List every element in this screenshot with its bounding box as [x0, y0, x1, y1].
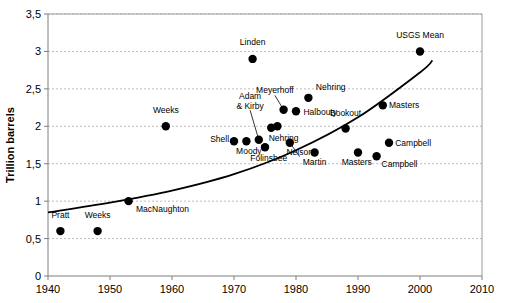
data-point: [93, 227, 101, 235]
x-tick-label: 1970: [222, 283, 246, 295]
point-label: Linden: [240, 37, 266, 47]
data-point: [242, 137, 250, 145]
chart-container: 00,511,522,533,5 19401950196019701980199…: [0, 0, 508, 303]
point-label: Nehring: [269, 133, 299, 143]
point-label: Martin: [303, 157, 327, 167]
trend-curve: [48, 60, 432, 212]
data-point: [304, 94, 312, 102]
data-point: [292, 107, 300, 115]
data-point: [56, 227, 64, 235]
point-label: Weeks: [85, 210, 111, 220]
x-axis-ticks: 19401950196019701980199020002010: [36, 276, 494, 295]
data-point: [230, 137, 238, 145]
data-point: [273, 122, 281, 130]
y-axis-ticks: 00,511,522,533,5: [26, 8, 48, 282]
x-tick-label: 2000: [408, 283, 432, 295]
y-axis-title-label: Trillion barrels: [4, 107, 16, 183]
data-point: [385, 139, 393, 147]
data-point: [279, 106, 287, 114]
point-label: Pratt: [51, 210, 70, 220]
point-label: MacNaughton: [136, 204, 189, 214]
point-label: Weeks: [153, 105, 179, 115]
data-point: [248, 55, 256, 63]
point-label: Masters: [389, 100, 419, 110]
point-label: Folinsbee: [250, 153, 287, 163]
y-axis-title: Trillion barrels: [4, 107, 16, 183]
x-tick-label: 1940: [36, 283, 60, 295]
point-label: Nehring: [316, 82, 346, 92]
x-tick-label: 1950: [98, 283, 122, 295]
x-tick-label: 1960: [160, 283, 184, 295]
point-labels: PrattWeeksMacNaughtonWeeksShellMoodyAdam…: [51, 30, 444, 220]
y-tick-label: 1,5: [26, 158, 41, 170]
x-tick-label: 2010: [470, 283, 494, 295]
point-label: Shell: [210, 134, 229, 144]
data-point: [341, 124, 349, 132]
data-point: [379, 101, 387, 109]
point-label: Campbell: [395, 138, 431, 148]
point-label: Bookout: [330, 108, 362, 118]
data-point: [354, 148, 362, 156]
trend-curve-path: [48, 60, 432, 212]
y-tick-label: 3,5: [26, 8, 41, 20]
y-tick-label: 1: [35, 195, 41, 207]
point-label: USGS Mean: [396, 30, 444, 40]
y-tick-label: 3: [35, 45, 41, 57]
y-tick-label: 0,5: [26, 233, 41, 245]
data-point: [416, 47, 424, 55]
y-tick-label: 0: [35, 270, 41, 282]
point-label: Meyerhoff: [256, 85, 294, 95]
data-point: [255, 136, 263, 144]
point-label: Nelson: [286, 147, 313, 157]
x-tick-label: 1980: [284, 283, 308, 295]
data-point: [124, 197, 132, 205]
point-label: Masters: [342, 157, 372, 167]
point-label: Campbell: [382, 159, 418, 169]
label-leader-line: [250, 110, 259, 139]
data-point: [372, 152, 380, 160]
scatter-chart: 00,511,522,533,5 19401950196019701980199…: [0, 0, 508, 303]
chart-gridlines: [48, 14, 482, 239]
x-tick-label: 1990: [346, 283, 370, 295]
y-tick-label: 2: [35, 120, 41, 132]
data-points: [56, 47, 424, 235]
data-point: [261, 143, 269, 151]
data-point: [162, 122, 170, 130]
y-tick-label: 2,5: [26, 83, 41, 95]
